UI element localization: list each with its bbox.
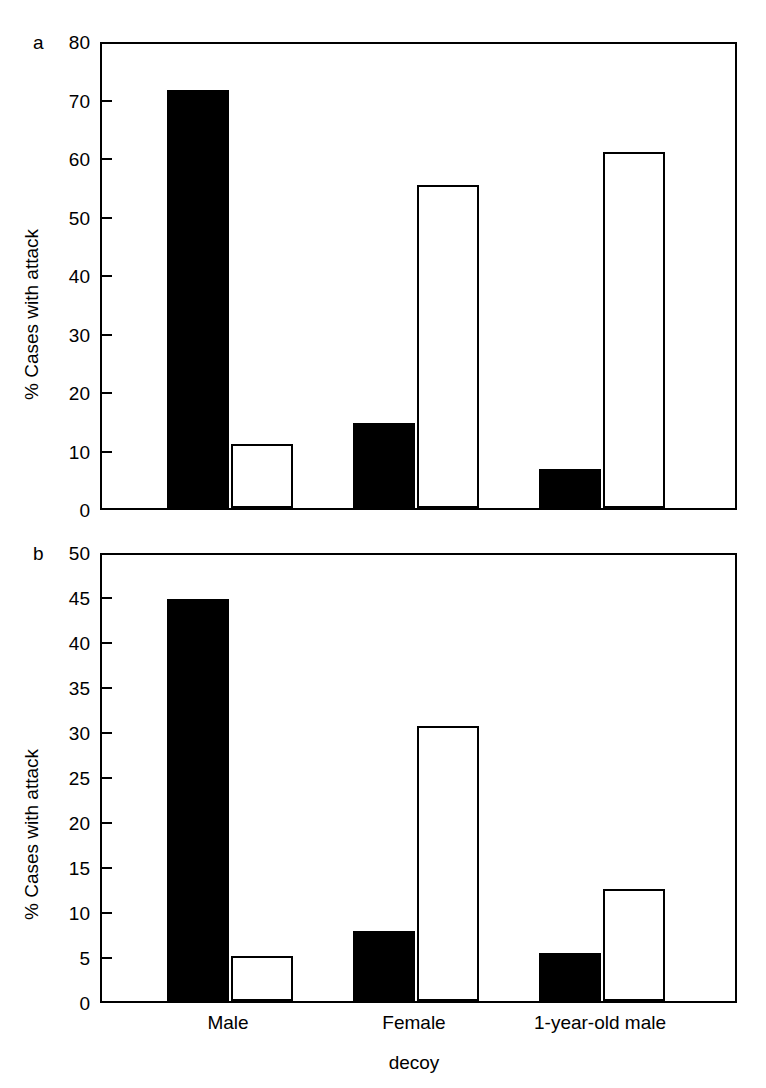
y-tick-mark (102, 732, 112, 734)
y-tick-mark (102, 275, 112, 277)
y-tick-mark (102, 597, 112, 599)
bar-male-open (231, 444, 293, 508)
bar-1-year-old-male-filled (539, 469, 601, 508)
y-tick-label: 50 (69, 208, 90, 227)
bar-1-year-old-male-open (603, 152, 665, 508)
bar-female-open (417, 185, 479, 509)
y-tick-mark (102, 158, 112, 160)
y-tick-label: 20 (69, 384, 90, 403)
y-tick-label: 60 (69, 150, 90, 169)
y-tick-label: 5 (79, 949, 90, 968)
bar-male-filled (167, 599, 229, 1001)
y-tick-mark (102, 217, 112, 219)
y-tick-mark (102, 867, 112, 869)
y-tick-mark (102, 777, 112, 779)
y-tick-label: 25 (69, 769, 90, 788)
x-tick-label: Female (382, 1013, 445, 1032)
y-tick-label: 15 (69, 859, 90, 878)
y-tick-label: 0 (79, 994, 90, 1013)
y-tick-label: 40 (69, 634, 90, 653)
bar-female-open (417, 726, 479, 1001)
panel-a-y-tick-labels: 01020304050607080 (44, 0, 90, 550)
y-tick-mark (102, 687, 112, 689)
panel-b-plot-frame (100, 553, 737, 1003)
panel-a-bars (102, 44, 735, 508)
x-tick-label: 1-year-old male (534, 1013, 666, 1032)
y-tick-label: 30 (69, 325, 90, 344)
y-tick-label: 45 (69, 589, 90, 608)
y-tick-mark (102, 912, 112, 914)
panel-b-letter: b (33, 544, 44, 563)
panel-b-y-axis-title: % Cases with attack (22, 749, 41, 920)
panel-a-plot-frame (100, 42, 737, 510)
y-tick-label: 20 (69, 814, 90, 833)
y-tick-label: 10 (69, 904, 90, 923)
y-tick-label: 10 (69, 442, 90, 461)
bar-female-filled (353, 423, 415, 508)
y-tick-label: 70 (69, 91, 90, 110)
y-tick-mark (102, 334, 112, 336)
y-tick-label: 35 (69, 679, 90, 698)
y-tick-mark (102, 392, 112, 394)
bar-male-filled (167, 90, 229, 508)
y-tick-mark (102, 822, 112, 824)
y-tick-label: 50 (69, 544, 90, 563)
y-tick-label: 40 (69, 267, 90, 286)
y-tick-label: 30 (69, 724, 90, 743)
y-tick-mark (102, 451, 112, 453)
panel-b-y-tick-labels: 05101520253035404550 (44, 540, 90, 1043)
bar-1-year-old-male-open (603, 889, 665, 1002)
x-tick-label: Male (207, 1013, 248, 1032)
panel-b-bars (102, 555, 735, 1001)
bar-male-open (231, 956, 293, 1001)
panel-b-x-axis-title: decoy (389, 1053, 440, 1072)
panel-a-letter: a (33, 33, 44, 52)
y-tick-mark (102, 642, 112, 644)
y-tick-label: 0 (79, 501, 90, 520)
y-tick-mark (102, 100, 112, 102)
figure-bar-chart-attack-rates: a % Cases with attack 01020304050607080 … (0, 0, 766, 1088)
bar-1-year-old-male-filled (539, 953, 601, 1001)
y-tick-mark (102, 957, 112, 959)
panel-a-y-axis-title: % Cases with attack (22, 229, 41, 400)
bar-female-filled (353, 931, 415, 1001)
panel-b: b % Cases with attack 051015202530354045… (0, 540, 766, 1088)
panel-a: a % Cases with attack 01020304050607080 (0, 0, 766, 530)
y-tick-label: 80 (69, 33, 90, 52)
